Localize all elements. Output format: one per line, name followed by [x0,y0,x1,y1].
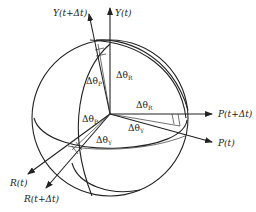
label-dtheta-p-left: ΔθP [82,114,98,125]
label-r-t: R(t) [9,178,28,188]
ray-2 [110,114,180,126]
label-dtheta-y-left: ΔθY [96,135,113,146]
label-p-t: P(t) [217,138,235,148]
label-dtheta-r-right: ΔθR [136,100,153,111]
label-y-t: Y(t) [115,8,132,18]
label-r-t-dt: R(t+Δt) [23,194,60,204]
label-dtheta-p-top: ΔθP [86,76,102,87]
label-dtheta-y-right: ΔθY [128,123,145,134]
rotation-sphere-diagram: Y(t+Δt) Y(t) P(t+Δt) P(t) R(t) R(t+Δt) Δ… [0,0,256,212]
angle-arc-right [172,114,180,126]
axis-y-t-dt [89,14,110,114]
meridian-arc-4 [72,163,140,192]
axis-p-t [110,114,212,142]
label-y-t-dt: Y(t+Δt) [53,8,88,18]
label-dtheta-r-top: ΔθR [116,70,133,81]
label-p-t-dt: P(t+Δt) [217,109,253,119]
